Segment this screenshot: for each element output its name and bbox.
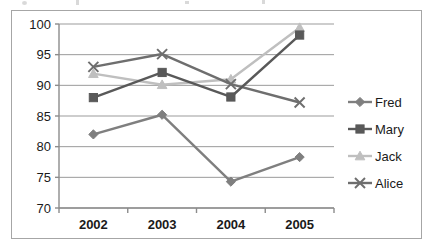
- value-tick-label: 70: [37, 201, 51, 216]
- legend-entry-alice[interactable]: Alice: [348, 176, 403, 191]
- series-line: [93, 35, 299, 98]
- chart-frame: 707580859095100 2002200320042005 FredMar…: [11, 10, 422, 239]
- series-mary: [89, 31, 303, 102]
- data-point-marker: [356, 125, 364, 133]
- data-point-marker: [158, 68, 166, 76]
- legend-entry-mary[interactable]: Mary: [348, 122, 404, 137]
- data-point-marker: [227, 93, 235, 101]
- legend-entry-fred[interactable]: Fred: [348, 95, 402, 110]
- gridlines: [59, 24, 334, 208]
- data-point-marker: [295, 152, 304, 161]
- legend-entry-jack[interactable]: Jack: [348, 149, 402, 164]
- value-tick-label: 95: [37, 47, 51, 62]
- year-axis-ticks: [59, 208, 334, 213]
- year-axis-labels: 2002200320042005: [79, 217, 314, 232]
- value-tick-label: 90: [37, 78, 51, 93]
- value-tick-label: 80: [37, 139, 51, 154]
- value-tick-label: 85: [37, 109, 51, 124]
- year-tick-label: 2003: [148, 217, 177, 232]
- legend-label: Mary: [375, 122, 404, 137]
- year-tick-label: 2002: [79, 217, 108, 232]
- data-point-marker: [355, 97, 364, 106]
- legend-label: Jack: [375, 149, 402, 164]
- chart-legend: FredMaryJackAlice: [348, 95, 404, 191]
- series-line: [93, 115, 299, 182]
- data-point-marker: [296, 31, 304, 39]
- value-axis-labels: 707580859095100: [29, 17, 51, 216]
- data-series-layer: [88, 23, 304, 186]
- clipped-text-artifacts: [0, 0, 433, 8]
- value-tick-label: 75: [37, 170, 51, 185]
- data-point-marker: [89, 130, 98, 139]
- line-chart: 707580859095100 2002200320042005 FredMar…: [12, 11, 421, 238]
- series-fred: [89, 110, 304, 186]
- chart-canvas: 707580859095100 2002200320042005 FredMar…: [12, 11, 421, 238]
- year-tick-label: 2004: [216, 217, 246, 232]
- legend-label: Alice: [375, 176, 403, 191]
- year-tick-label: 2005: [285, 217, 314, 232]
- legend-label: Fred: [375, 95, 402, 110]
- series-line: [93, 28, 299, 85]
- data-point-marker: [89, 94, 97, 102]
- value-tick-label: 100: [29, 17, 51, 32]
- series-jack: [89, 23, 305, 89]
